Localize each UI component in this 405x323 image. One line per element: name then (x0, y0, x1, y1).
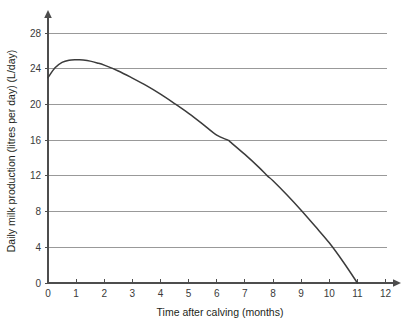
x-tick-label-8: 8 (270, 288, 276, 299)
y-tick-label-12: 12 (30, 170, 42, 181)
milk-production-line-chart: 0481216202428 0123456789101112 Time afte… (0, 0, 405, 323)
x-tick-label-6: 6 (214, 288, 220, 299)
y-tick-label-16: 16 (30, 135, 42, 146)
chart-background (0, 0, 405, 323)
x-tick-label-11: 11 (352, 288, 363, 299)
x-axis-title: Time after calving (months) (157, 306, 284, 318)
chart-container: 0481216202428 0123456789101112 Time afte… (0, 0, 405, 323)
y-tick-label-28: 28 (30, 28, 42, 39)
x-tick-label-4: 4 (158, 288, 164, 299)
y-tick-label-20: 20 (30, 99, 42, 110)
x-tick-label-3: 3 (130, 288, 136, 299)
x-tick-label-12: 12 (380, 288, 392, 299)
y-tick-label-0: 0 (35, 278, 41, 289)
x-tick-label-7: 7 (242, 288, 248, 299)
x-tick-label-1: 1 (73, 288, 79, 299)
y-axis-title: Daily milk production (litres per day) (… (5, 50, 17, 252)
y-tick-label-8: 8 (35, 206, 41, 217)
y-tick-label-4: 4 (35, 242, 41, 253)
x-tick-label-2: 2 (101, 288, 107, 299)
y-tick-label-24: 24 (30, 63, 42, 74)
x-tick-label-9: 9 (298, 288, 304, 299)
x-tick-label-10: 10 (324, 288, 336, 299)
x-tick-label-0: 0 (45, 288, 51, 299)
x-tick-label-5: 5 (186, 288, 192, 299)
